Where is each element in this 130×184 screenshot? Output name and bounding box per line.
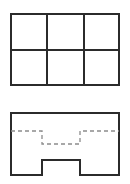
technical-drawing-sheet — [0, 0, 130, 184]
bottom-view-figure — [11, 113, 119, 175]
top-view-figure — [11, 14, 119, 85]
drawing-canvas — [0, 0, 130, 184]
bottom-view-hidden-edge-profile — [11, 131, 119, 144]
